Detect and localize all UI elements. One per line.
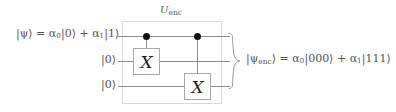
cnot-1-target-x-gate: X [133, 48, 160, 75]
input-ket1-text: |1⟩ [104, 27, 119, 40]
quantum-circuit-figure: |ψ⟩ = α0|0⟩ + α1|1⟩ |0⟩ |0⟩ Uenc X X |ψe… [0, 0, 396, 112]
output-ket111-text: |111⟩ [362, 52, 391, 65]
output-state-eq-text: ⟩ = α [272, 52, 300, 65]
output-psi-subscript: enc [258, 57, 271, 66]
unitary-label: Uenc [160, 5, 182, 16]
input-ket0-text: |0⟩ + α [61, 27, 100, 40]
output-grouping-brace [228, 32, 242, 90]
input-state-text: |ψ⟩ = α [16, 27, 56, 40]
ancilla-label-first: |0⟩ [90, 54, 116, 65]
input-state-label: |ψ⟩ = α0|0⟩ + α1|1⟩ [16, 28, 119, 40]
cnot-2-target-x-gate: X [184, 73, 211, 100]
cnot-1-control-dot [143, 33, 150, 40]
cnot-2-control-dot [194, 33, 201, 40]
qubit-wire-2 [118, 86, 230, 87]
unitary-subscript: enc [168, 8, 181, 17]
ancilla-label-second: |0⟩ [90, 79, 116, 90]
output-ket000-text: |000⟩ + α [304, 52, 357, 65]
output-state-open-text: |ψ [246, 52, 258, 65]
qubit-wire-0 [118, 36, 230, 37]
output-state-label: |ψenc⟩ = α0|000⟩ + α1|111⟩ [246, 53, 391, 65]
